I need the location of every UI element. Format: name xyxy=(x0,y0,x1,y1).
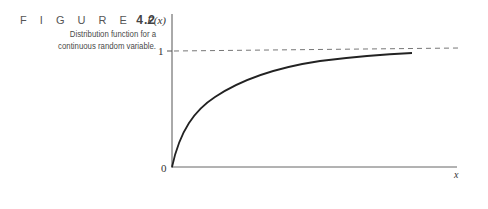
y-axis-label: F(x) xyxy=(146,14,166,27)
cdf-curve xyxy=(172,53,412,167)
asymptote-line xyxy=(174,48,460,51)
x-axis-label: x xyxy=(453,169,459,180)
y-tick-label-0: 0 xyxy=(161,162,167,174)
y-tick-label-1: 1 xyxy=(158,45,164,57)
chart: F(x) 1 0 x xyxy=(0,0,488,209)
